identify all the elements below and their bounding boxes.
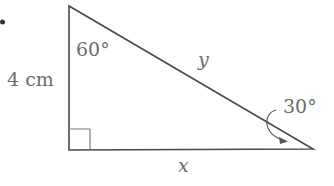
vertical-side-label: 4 cm [7, 68, 54, 90]
arrowhead-icon [279, 137, 288, 144]
right-angle-marker [69, 129, 90, 150]
hypotenuse-label: y [197, 48, 209, 70]
top-angle-label: 60° [76, 38, 110, 60]
triangle-shape [69, 6, 313, 150]
triangle-diagram: 60° 4 cm y 30° x [0, 0, 334, 186]
bottom-side-label: x [178, 154, 189, 176]
bottom-right-angle-label: 30° [283, 95, 317, 117]
bullet-icon [0, 20, 5, 25]
